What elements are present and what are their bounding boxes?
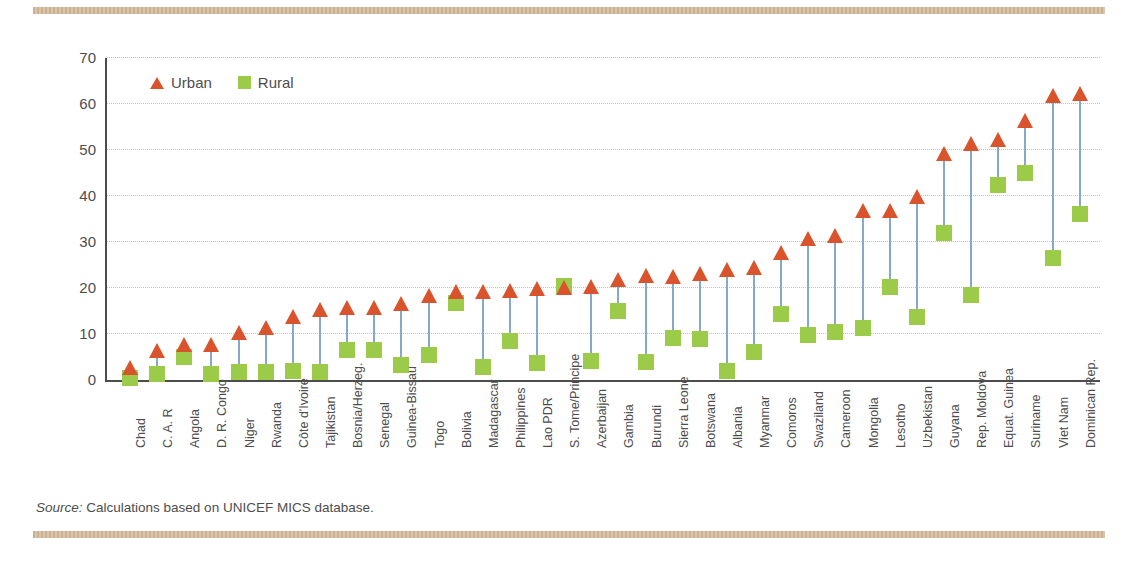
x-tick-label: Sierra Leone <box>678 376 691 448</box>
y-tick-label: 70 <box>62 50 96 65</box>
urban-marker[interactable] <box>827 228 843 243</box>
urban-marker[interactable] <box>583 279 599 294</box>
rural-marker[interactable] <box>1072 206 1088 222</box>
urban-marker[interactable] <box>312 302 328 317</box>
rural-marker[interactable] <box>638 354 654 370</box>
connector-line <box>780 254 782 315</box>
urban-marker[interactable] <box>285 309 301 324</box>
rural-marker[interactable] <box>610 303 626 319</box>
urban-marker[interactable] <box>421 288 437 303</box>
x-tick-label: Suriname <box>1030 395 1043 449</box>
rural-marker[interactable] <box>665 330 681 346</box>
urban-marker[interactable] <box>638 268 654 283</box>
x-tick-label: Rwanda <box>271 402 284 448</box>
x-tick-label: Guinea-Bissau <box>406 366 419 448</box>
urban-marker[interactable] <box>475 284 491 299</box>
y-tick-label: 30 <box>62 234 96 249</box>
rural-marker[interactable] <box>827 324 843 340</box>
urban-marker[interactable] <box>529 281 545 296</box>
urban-marker[interactable] <box>502 283 518 298</box>
rural-marker[interactable] <box>1045 250 1061 266</box>
urban-marker[interactable] <box>692 266 708 281</box>
rural-marker[interactable] <box>692 331 708 347</box>
rural-marker[interactable] <box>366 342 382 358</box>
y-tick-label: 0 <box>62 372 96 387</box>
source-note: Source: Calculations based on UNICEF MIC… <box>36 500 374 515</box>
rural-marker[interactable] <box>990 177 1006 193</box>
urban-marker[interactable] <box>176 337 192 352</box>
rural-marker[interactable] <box>719 363 735 379</box>
urban-marker[interactable] <box>393 296 409 311</box>
rural-marker[interactable] <box>149 366 165 382</box>
connector-line <box>1079 95 1081 215</box>
rural-marker[interactable] <box>258 364 274 380</box>
rural-marker[interactable] <box>583 353 599 369</box>
urban-marker[interactable] <box>1072 86 1088 101</box>
rural-marker[interactable] <box>1017 165 1033 181</box>
rural-marker[interactable] <box>800 327 816 343</box>
rural-marker[interactable] <box>936 225 952 241</box>
rural-marker[interactable] <box>231 364 247 380</box>
x-tick-label: Angola <box>189 409 202 448</box>
rural-marker[interactable] <box>285 363 301 379</box>
urban-marker[interactable] <box>800 231 816 246</box>
y-tick-label: 10 <box>62 326 96 341</box>
urban-marker[interactable] <box>149 343 165 358</box>
urban-marker[interactable] <box>1045 88 1061 103</box>
urban-marker[interactable] <box>610 272 626 287</box>
urban-marker[interactable] <box>122 360 138 375</box>
source-prefix: Source: <box>36 500 83 515</box>
urban-marker[interactable] <box>719 262 735 277</box>
connector-line <box>807 240 809 335</box>
x-tick-label: Philippines <box>515 388 528 448</box>
urban-marker[interactable] <box>773 245 789 260</box>
source-text: Calculations based on UNICEF MICS databa… <box>86 500 373 515</box>
x-tick-label: Gambia <box>623 404 636 448</box>
urban-marker[interactable] <box>882 203 898 218</box>
urban-marker[interactable] <box>1017 113 1033 128</box>
urban-marker[interactable] <box>990 132 1006 147</box>
connector-line <box>970 145 972 295</box>
connector-line <box>943 155 945 233</box>
connector-line <box>319 311 321 372</box>
connector-line <box>862 212 864 328</box>
urban-marker[interactable] <box>746 260 762 275</box>
rural-marker[interactable] <box>475 359 491 375</box>
legend-label-urban: Urban <box>171 74 212 91</box>
urban-marker[interactable] <box>936 146 952 161</box>
urban-marker[interactable] <box>556 280 572 295</box>
gridline <box>107 103 1100 104</box>
rural-marker[interactable] <box>882 279 898 295</box>
rural-marker[interactable] <box>855 320 871 336</box>
rural-marker[interactable] <box>963 287 979 303</box>
urban-marker[interactable] <box>231 325 247 340</box>
urban-marker[interactable] <box>339 300 355 315</box>
rural-marker[interactable] <box>312 364 328 380</box>
chart-legend: Urban Rural <box>150 74 294 91</box>
rural-marker[interactable] <box>421 347 437 363</box>
connector-line <box>1052 97 1054 258</box>
connector-line <box>753 269 755 353</box>
x-tick-label: Senegal <box>379 402 392 448</box>
urban-marker[interactable] <box>855 203 871 218</box>
rural-marker[interactable] <box>339 342 355 358</box>
x-tick-label: Burundi <box>651 405 664 448</box>
urban-marker[interactable] <box>258 320 274 335</box>
gridline <box>107 287 1100 288</box>
x-tick-label: Bolivia <box>461 411 474 448</box>
urban-marker[interactable] <box>203 337 219 352</box>
rural-marker[interactable] <box>502 333 518 349</box>
connector-line <box>699 275 701 338</box>
connector-line <box>590 288 592 361</box>
urban-marker[interactable] <box>665 269 681 284</box>
x-tick-label: S. Tome/Principe <box>569 354 582 448</box>
connector-line <box>916 198 918 316</box>
urban-marker[interactable] <box>963 136 979 151</box>
rural-marker[interactable] <box>529 355 545 371</box>
urban-marker[interactable] <box>909 189 925 204</box>
urban-marker[interactable] <box>366 300 382 315</box>
urban-marker[interactable] <box>448 284 464 299</box>
rural-marker[interactable] <box>746 344 762 360</box>
rural-marker[interactable] <box>909 309 925 325</box>
rural-marker[interactable] <box>773 306 789 322</box>
